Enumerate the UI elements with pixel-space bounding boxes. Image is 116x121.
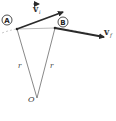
circular-motion-diagram: A B v i v f r r O — [0, 0, 116, 121]
label-a-circled: A — [2, 15, 12, 25]
svg-text:v: v — [103, 27, 110, 37]
svg-text:B: B — [60, 19, 65, 27]
center-label-o: O — [28, 95, 35, 104]
label-b-circled: B — [58, 17, 68, 27]
svg-text:i: i — [39, 9, 41, 15]
label-vf: v f — [103, 27, 113, 39]
svg-text:v: v — [32, 4, 39, 14]
radius-label-right: r — [50, 62, 54, 70]
label-vi: v i — [32, 4, 41, 15]
radius-label-left: r — [18, 62, 22, 70]
svg-text:A: A — [4, 17, 10, 25]
circular-path-dashed — [2, 29, 17, 33]
chord-a-b — [17, 28, 55, 29]
vector-vf-arrow — [55, 28, 104, 37]
svg-text:f: f — [109, 32, 113, 39]
